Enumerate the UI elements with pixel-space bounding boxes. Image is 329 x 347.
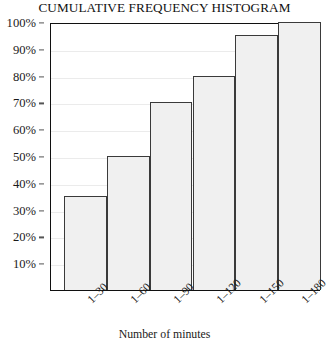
y-tick-mark: [39, 130, 44, 131]
y-tick-label: 20%: [13, 230, 36, 245]
y-tick-label: 90%: [13, 42, 36, 57]
bar: [193, 76, 236, 290]
y-tick-mark: [39, 237, 44, 238]
bar: [150, 102, 193, 290]
bar: [278, 22, 321, 290]
y-tick-label: 10%: [13, 257, 36, 272]
chart-title: CUMULATIVE FREQUENCY HISTOGRAM: [0, 0, 329, 16]
y-tick-mark: [39, 264, 44, 265]
bar: [235, 35, 278, 290]
y-tick-label: 50%: [13, 150, 36, 165]
y-tick-mark: [39, 49, 44, 50]
plot-area: [50, 23, 320, 291]
y-tick-label: 80%: [13, 69, 36, 84]
y-tick-mark: [39, 76, 44, 77]
bar: [64, 196, 107, 290]
bars-layer: [51, 24, 319, 290]
y-tick-label: 30%: [13, 203, 36, 218]
bar: [107, 156, 150, 290]
y-tick-label: 100%: [7, 16, 36, 31]
y-axis: 10%20%30%40%50%60%70%80%90%100%: [0, 23, 44, 291]
y-tick-mark: [39, 156, 44, 157]
y-tick-mark: [39, 210, 44, 211]
y-tick-mark: [39, 183, 44, 184]
y-tick-label: 40%: [13, 176, 36, 191]
cumulative-frequency-histogram: CUMULATIVE FREQUENCY HISTOGRAM 10%20%30%…: [0, 0, 329, 347]
y-tick-mark: [39, 22, 44, 23]
x-axis-title: Number of minutes: [0, 327, 329, 342]
y-tick-mark: [39, 103, 44, 104]
y-tick-label: 60%: [13, 123, 36, 138]
y-tick-label: 70%: [13, 96, 36, 111]
